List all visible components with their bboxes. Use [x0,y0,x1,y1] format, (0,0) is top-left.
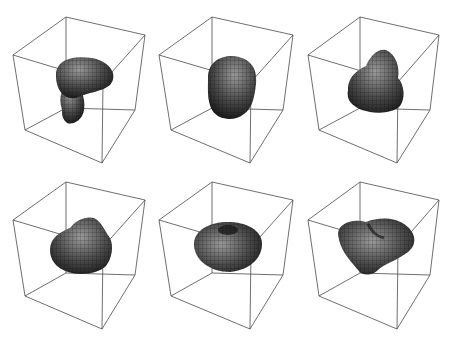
surface [348,50,404,113]
surface [194,222,262,272]
plot-svg [0,0,152,172]
surface [208,56,256,119]
plot-svg [300,172,452,344]
plot-svg [300,0,452,172]
figure-grid [0,0,455,344]
surface-plot-3 [300,0,452,172]
surface [338,219,414,275]
surface [50,217,112,274]
surface [56,57,113,123]
surface-plot-1 [0,0,152,172]
surface-plot-6 [300,172,452,344]
surface-plot-5 [150,172,302,344]
plot-svg [150,172,302,344]
plot-svg [0,172,152,344]
surface-plot-4 [0,172,152,344]
surface-plot-2 [150,0,302,172]
plot-svg [150,0,302,172]
